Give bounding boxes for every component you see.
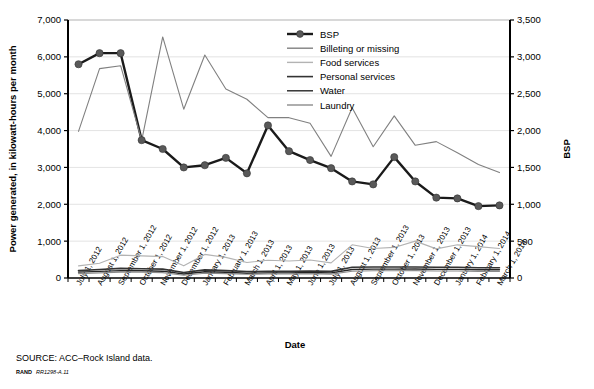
chart-figure: 01,0002,0003,0004,0005,0006,0007,0000500…: [0, 0, 594, 389]
data-point: [496, 202, 503, 209]
data-point: [454, 195, 461, 202]
data-point: [328, 165, 335, 172]
legend-label: Water: [320, 85, 345, 96]
data-point: [75, 61, 82, 68]
data-point: [159, 145, 166, 152]
rand-label: RAND: [16, 369, 32, 375]
y-tick-label-right: 1,500: [517, 162, 541, 173]
legend-label: Billeting or missing: [320, 43, 399, 54]
y-axis-title-left: Power generated, in kilowatt-hours per m…: [7, 45, 18, 252]
rand-credit: RANDRR1298-A.11: [16, 369, 69, 375]
data-point: [306, 156, 313, 163]
y-tick-label-right: 2,500: [517, 88, 541, 99]
data-point: [243, 170, 250, 177]
data-point: [201, 162, 208, 169]
data-point: [180, 164, 187, 171]
y-tick-label-left: 2,000: [37, 199, 61, 210]
y-tick-label-left: 4,000: [37, 125, 61, 136]
y-tick-label-right: 3,000: [517, 51, 541, 62]
data-point: [412, 178, 419, 185]
data-point: [96, 50, 103, 57]
legend-label: BSP: [320, 29, 339, 40]
y-tick-label-left: 6,000: [37, 51, 61, 62]
y-tick-label-left: 0: [56, 272, 61, 283]
y-tick-label-left: 5,000: [37, 88, 61, 99]
data-point: [475, 203, 482, 210]
data-point: [264, 122, 271, 129]
x-axis-title: Date: [285, 339, 306, 350]
data-point: [349, 178, 356, 185]
y-tick-label-left: 7,000: [37, 14, 61, 25]
y-tick-label-left: 3,000: [37, 162, 61, 173]
legend-label: Food services: [320, 57, 379, 68]
legend-label: Personal services: [320, 71, 395, 82]
data-point: [433, 194, 440, 201]
data-point: [138, 137, 145, 144]
y-tick-label-right: 1,000: [517, 199, 541, 210]
y-tick-label-right: 0: [517, 272, 522, 283]
y-tick-label-left: 1,000: [37, 236, 61, 247]
rand-code: RR1298-A.11: [36, 369, 69, 375]
data-point: [370, 181, 377, 188]
y-axis-title-right: BSP: [561, 139, 572, 159]
y-tick-label-right: 3,500: [517, 14, 541, 25]
data-point: [391, 154, 398, 161]
y-tick-label-right: 2,000: [517, 125, 541, 136]
chart-svg: 01,0002,0003,0004,0005,0006,0007,0000500…: [0, 0, 594, 389]
data-point: [285, 148, 292, 155]
source-note: SOURCE: ACC–Rock Island data.: [16, 353, 153, 363]
data-point: [222, 154, 229, 161]
legend-marker: [297, 31, 304, 38]
data-point: [117, 50, 124, 57]
legend-label: Laundry: [320, 100, 355, 111]
